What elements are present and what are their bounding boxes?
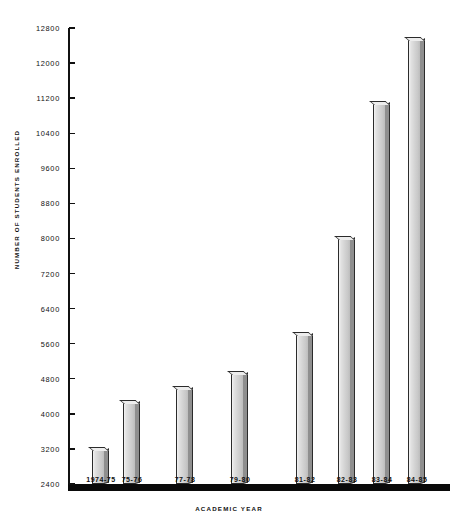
- y-tick-label-2400: 2400: [16, 480, 60, 489]
- x-tick-label-75-76: 75-76: [102, 476, 162, 483]
- y-tick-4800: [69, 378, 75, 379]
- x-axis-title: ACADEMIC YEAR: [0, 505, 458, 512]
- y-tick-2400: [69, 483, 75, 484]
- bar-side-face: [243, 373, 248, 484]
- bar-top-face: [88, 447, 109, 451]
- bar-side-face: [135, 401, 140, 484]
- bar-top-face: [404, 37, 425, 41]
- bar-top-face: [292, 332, 313, 336]
- y-tick-6400: [69, 308, 75, 309]
- bar-top-face: [119, 400, 140, 404]
- y-tick-label-12800: 12800: [16, 24, 60, 33]
- bar-face: [123, 403, 136, 484]
- y-tick-5600: [69, 343, 75, 344]
- x-tick-label-79-80: 79-80: [210, 476, 270, 483]
- bar-side-face: [308, 333, 313, 484]
- bar-chart: NUMBER OF STUDENTS ENROLLED 240032004000…: [0, 0, 458, 531]
- x-tick-label-77-78: 77-78: [155, 476, 215, 483]
- y-tick-10400: [69, 133, 75, 134]
- bar-side-face: [385, 103, 390, 485]
- bar-75-76: [123, 403, 141, 484]
- y-tick-label-8000: 8000: [16, 234, 60, 243]
- plot-area: [68, 22, 450, 486]
- bar-84-85: [408, 40, 426, 484]
- y-tick-12800: [69, 27, 75, 28]
- bar-face: [408, 40, 421, 484]
- y-tick-label-10400: 10400: [16, 129, 60, 138]
- y-tick-label-3200: 3200: [16, 445, 60, 454]
- bar-side-face: [350, 238, 355, 484]
- y-tick-7200: [69, 273, 75, 274]
- bar-top-face: [227, 371, 248, 375]
- bar-side-face: [188, 387, 193, 484]
- bar-face: [231, 374, 244, 484]
- x-tick-label-84-85: 84-85: [387, 476, 447, 483]
- bar-79-80: [231, 374, 249, 484]
- bar-side-face: [420, 38, 425, 484]
- y-tick-label-9600: 9600: [16, 164, 60, 173]
- y-tick-9600: [69, 168, 75, 169]
- bar-face: [373, 104, 386, 484]
- bar-82-83: [338, 239, 356, 484]
- y-tick-8000: [69, 238, 75, 239]
- y-tick-label-7200: 7200: [16, 270, 60, 279]
- y-tick-label-12000: 12000: [16, 59, 60, 68]
- y-tick-12000: [69, 62, 75, 63]
- bar-face: [296, 335, 309, 484]
- bar-top-face: [369, 101, 390, 105]
- bar-top-face: [334, 236, 355, 240]
- x-axis-baseline: [68, 484, 450, 491]
- bar-83-84: [373, 104, 391, 484]
- y-tick-4000: [69, 413, 75, 414]
- bar-77-78: [176, 389, 194, 484]
- y-tick-label-11200: 11200: [16, 94, 60, 103]
- bar-face: [176, 389, 189, 484]
- y-tick-label-5600: 5600: [16, 340, 60, 349]
- y-tick-11200: [69, 97, 75, 98]
- y-tick-3200: [69, 448, 75, 449]
- y-tick-label-6400: 6400: [16, 305, 60, 314]
- bar-81-82: [296, 335, 314, 484]
- bar-face: [338, 239, 351, 484]
- y-tick-label-8800: 8800: [16, 199, 60, 208]
- y-tick-label-4800: 4800: [16, 375, 60, 384]
- y-tick-label-4000: 4000: [16, 410, 60, 419]
- bar-top-face: [172, 386, 193, 390]
- y-tick-8800: [69, 203, 75, 204]
